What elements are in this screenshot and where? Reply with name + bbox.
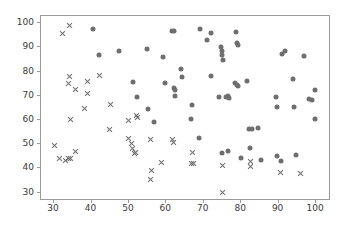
- scatter-point-dot: [248, 146, 253, 151]
- scatter-point-dot: [302, 54, 307, 59]
- scatter-point-dot: [196, 136, 201, 141]
- scatter-point-dot: [209, 30, 214, 35]
- scatter-point-dot: [293, 153, 298, 158]
- scatter-point-cross: [72, 86, 79, 93]
- scatter-point-cross: [96, 72, 103, 79]
- scatter-point-cross: [190, 160, 197, 167]
- scatter-point-dot: [220, 52, 225, 57]
- scatter-point-cross: [129, 145, 136, 152]
- scatter-point-cross: [59, 30, 66, 37]
- scatter-point-dot: [189, 102, 194, 107]
- y-axis-tick-mark: [37, 71, 40, 72]
- scatter-point-dot: [151, 119, 156, 124]
- scatter-point-cross: [72, 148, 79, 155]
- scatter-point-cross: [106, 126, 113, 133]
- x-axis-tick-label: 100: [306, 203, 323, 213]
- scatter-point-cross: [247, 163, 254, 170]
- scatter-point-dot: [239, 156, 244, 161]
- plot-axes-area: [40, 15, 330, 200]
- scatter-plot-figure: 3040506070809010030405060708090100: [0, 0, 352, 242]
- scatter-point-cross: [219, 189, 226, 196]
- scatter-point-dot: [282, 49, 287, 54]
- y-axis-tick-label: 40: [23, 162, 34, 172]
- scatter-point-cross: [65, 80, 72, 87]
- scatter-point-cross: [133, 112, 140, 119]
- scatter-point-cross: [125, 135, 132, 142]
- scatter-point-dot: [245, 79, 250, 84]
- x-axis-tick-label: 30: [47, 203, 58, 213]
- scatter-point-dot: [208, 73, 213, 78]
- scatter-point-dot: [275, 153, 280, 158]
- x-axis-tick-label: 90: [272, 203, 283, 213]
- scatter-point-cross: [81, 105, 88, 112]
- scatter-point-cross: [131, 150, 138, 157]
- scatter-point-dot: [236, 43, 241, 48]
- y-axis-tick-label: 70: [23, 90, 34, 100]
- scatter-point-dot: [135, 95, 140, 100]
- scatter-point-dot: [173, 87, 178, 92]
- y-axis-tick-label: 100: [17, 17, 34, 27]
- scatter-point-cross: [148, 167, 155, 174]
- x-axis-tick-label: 40: [85, 203, 96, 213]
- scatter-point-dot: [307, 96, 312, 101]
- scatter-point-dot: [180, 74, 185, 79]
- scatter-point-cross: [66, 22, 73, 29]
- scatter-point-cross: [219, 162, 226, 169]
- x-axis-tick-mark: [53, 200, 54, 203]
- scatter-point-cross: [67, 116, 74, 123]
- y-axis-tick-mark: [37, 119, 40, 120]
- scatter-point-cross: [66, 73, 73, 80]
- x-axis-tick-mark: [315, 200, 316, 203]
- y-axis-tick-mark: [37, 95, 40, 96]
- x-axis-tick-mark: [128, 200, 129, 203]
- scatter-point-dot: [198, 27, 203, 32]
- scatter-point-dot: [236, 84, 241, 89]
- y-axis-tick-mark: [37, 167, 40, 168]
- y-axis-tick-label: 80: [23, 66, 34, 76]
- scatter-point-dot: [313, 116, 318, 121]
- scatter-point-cross: [67, 155, 74, 162]
- y-axis-tick-label: 60: [23, 114, 34, 124]
- x-axis-tick-mark: [240, 200, 241, 203]
- scatter-point-dot: [274, 95, 279, 100]
- scatter-point-cross: [297, 170, 304, 177]
- scatter-point-dot: [224, 94, 229, 99]
- y-axis-tick-label: 30: [23, 187, 34, 197]
- scatter-point-dot: [172, 93, 177, 98]
- scatter-point-dot: [117, 49, 122, 54]
- scatter-point-dot: [171, 28, 176, 33]
- y-axis-tick-mark: [37, 46, 40, 47]
- scatter-point-cross: [56, 155, 63, 162]
- x-axis-tick-mark: [278, 200, 279, 203]
- scatter-point-dot: [226, 94, 231, 99]
- scatter-point-dot: [179, 67, 184, 72]
- scatter-point-dot: [233, 29, 238, 34]
- x-axis-tick-label: 80: [234, 203, 245, 213]
- scatter-point-dot: [91, 27, 96, 32]
- scatter-point-dot: [221, 57, 226, 62]
- scatter-point-dot: [233, 80, 238, 85]
- x-axis-tick-label: 60: [160, 203, 171, 213]
- x-axis-tick-label: 50: [122, 203, 133, 213]
- scatter-point-cross: [128, 140, 135, 147]
- scatter-point-cross: [277, 169, 284, 176]
- y-axis-tick-mark: [37, 192, 40, 193]
- scatter-point-dot: [131, 80, 136, 85]
- scatter-point-dot: [220, 151, 225, 156]
- scatter-point-dot: [171, 86, 176, 91]
- scatter-point-dot: [162, 80, 167, 85]
- y-axis-tick-label: 50: [23, 138, 34, 148]
- scatter-point-dot: [204, 37, 209, 42]
- scatter-point-dot: [218, 44, 223, 49]
- scatter-point-cross: [170, 139, 177, 146]
- scatter-point-cross: [107, 101, 114, 108]
- scatter-point-cross: [247, 158, 254, 165]
- y-axis-tick-mark: [37, 22, 40, 23]
- scatter-point-dot: [161, 54, 166, 59]
- scatter-point-cross: [169, 136, 176, 143]
- scatter-point-cross: [158, 159, 165, 166]
- scatter-point-dot: [226, 148, 231, 153]
- scatter-point-dot: [145, 107, 150, 112]
- x-axis-tick-label: 70: [197, 203, 208, 213]
- scatter-point-dot: [312, 88, 317, 93]
